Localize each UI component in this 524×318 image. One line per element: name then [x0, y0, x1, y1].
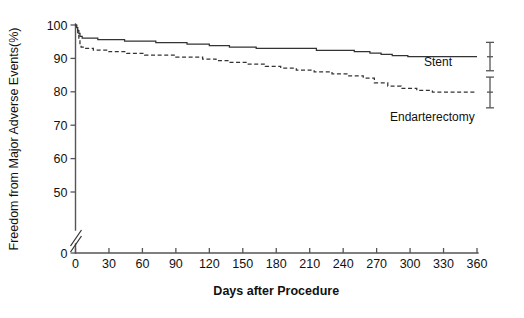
curves-group: [76, 25, 478, 92]
x-tick-label-240: 240: [333, 257, 354, 271]
curve-endarterectomy: [76, 25, 478, 92]
x-tick-label-360: 360: [467, 257, 488, 271]
survival-curve-chart: 0506070809010003060901201501802102402703…: [0, 0, 524, 318]
x-tick-label-30: 30: [102, 257, 116, 271]
series-label-endarterectomy: Endarterectomy: [390, 110, 475, 124]
series-label-stent: Stent: [424, 55, 453, 69]
y-tick-label-80: 80: [54, 85, 68, 99]
error-bars-group: [486, 42, 494, 107]
x-axis-title: Days after Procedure: [213, 284, 339, 298]
y-tick-label-90: 90: [54, 52, 68, 66]
curve-stent: [76, 25, 478, 57]
chart-container: 0506070809010003060901201501802102402703…: [0, 0, 524, 318]
y-tick-label-50: 50: [54, 186, 68, 200]
x-tick-label-210: 210: [299, 257, 320, 271]
series-labels-group: StentEndarterectomy: [390, 55, 475, 124]
y-tick-label-0: 0: [61, 247, 68, 261]
y-tick-label-60: 60: [54, 152, 68, 166]
x-tick-label-0: 0: [72, 257, 79, 271]
y-tick-group: 05060708090100: [47, 19, 76, 261]
y-tick-label-100: 100: [47, 19, 68, 33]
y-axis-title: Freedom from Major Adverse Events(%): [7, 28, 21, 251]
x-tick-label-90: 90: [169, 257, 183, 271]
x-tick-label-270: 270: [366, 257, 387, 271]
y-tick-label-70: 70: [54, 119, 68, 133]
x-tick-label-120: 120: [199, 257, 220, 271]
x-tick-label-150: 150: [232, 257, 253, 271]
x-tick-label-180: 180: [266, 257, 287, 271]
x-tick-group: 0306090120150180210240270300330360: [72, 248, 487, 271]
x-tick-label-300: 300: [400, 257, 421, 271]
axes-group: [71, 24, 479, 253]
x-tick-label-60: 60: [135, 257, 149, 271]
x-tick-label-330: 330: [433, 257, 454, 271]
